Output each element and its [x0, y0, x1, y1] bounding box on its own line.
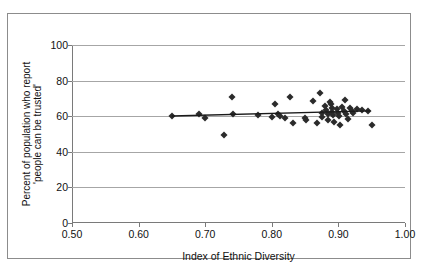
data-point	[220, 132, 227, 139]
chart-figure: Percent of population who report 'people…	[0, 0, 421, 273]
x-axis-tick-labels: 0.500.600.700.800.901.00	[72, 229, 405, 243]
y-tick-mark	[68, 116, 72, 117]
x-tick-mark	[205, 223, 206, 227]
chart-frame: Percent of population who report 'people…	[7, 13, 411, 259]
y-tick-mark	[68, 187, 72, 188]
y-axis-title-line1: Percent of population who report	[21, 45, 32, 223]
data-point	[344, 116, 351, 123]
gridline-y	[72, 81, 405, 82]
data-point	[337, 122, 344, 129]
data-point	[303, 117, 310, 124]
y-axis-tick-labels: 020406080100	[44, 45, 68, 223]
data-point	[314, 119, 321, 126]
y-tick-label: 60	[56, 111, 68, 121]
y-axis-line	[72, 45, 73, 223]
y-tick-label: 20	[56, 182, 68, 192]
gridline-y	[72, 116, 405, 117]
y-tick-label: 40	[56, 147, 68, 157]
data-point	[368, 121, 375, 128]
x-tick-label: 0.80	[252, 229, 292, 240]
x-tick-mark	[72, 223, 73, 227]
x-tick-mark	[338, 223, 339, 227]
y-axis-title-line2: 'people can be trusted'	[32, 45, 43, 223]
y-tick-label: 100	[50, 40, 68, 50]
gridline-y	[72, 187, 405, 188]
y-tick-label: 80	[56, 76, 68, 86]
data-point	[255, 112, 262, 119]
data-point	[290, 119, 297, 126]
x-tick-mark	[405, 223, 406, 227]
x-tick-label: 0.90	[318, 229, 358, 240]
x-tick-label: 0.70	[185, 229, 225, 240]
data-point	[272, 100, 279, 107]
x-axis-line	[72, 222, 405, 223]
x-tick-label: 0.50	[52, 229, 92, 240]
x-tick-mark	[139, 223, 140, 227]
data-point	[316, 90, 323, 97]
data-point	[365, 107, 372, 114]
trend-line	[72, 45, 405, 223]
x-tick-label: 0.60	[119, 229, 159, 240]
plot-area	[72, 45, 405, 223]
gridline-y	[72, 45, 405, 46]
gridline-y	[72, 152, 405, 153]
x-tick-mark	[272, 223, 273, 227]
y-tick-mark	[68, 152, 72, 153]
data-point	[228, 93, 235, 100]
data-point	[310, 98, 317, 105]
data-point	[342, 97, 349, 104]
data-point	[287, 93, 294, 100]
x-axis-title: Index of Ethnic Diversity	[72, 250, 405, 262]
y-tick-mark	[68, 81, 72, 82]
x-tick-label: 1.00	[385, 229, 421, 240]
data-point	[168, 113, 175, 120]
y-tick-mark	[68, 45, 72, 46]
y-axis-title: Percent of population who report 'people…	[21, 45, 43, 223]
